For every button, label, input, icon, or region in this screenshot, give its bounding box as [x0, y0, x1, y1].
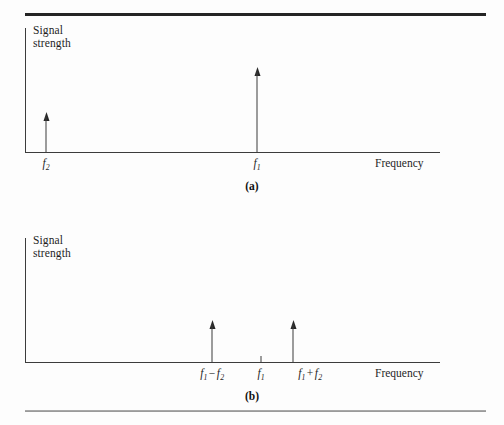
diff-sub2: 2: [220, 373, 224, 382]
panel-b-x-axis-label: Frequency: [375, 366, 424, 380]
bottom-divider-rule: [25, 410, 486, 412]
panel-b-spike-difference: [208, 320, 217, 362]
panel-a: Signal strength f2 f1 Frequency (a): [0, 20, 504, 205]
panel-a-spike-f1: [253, 67, 262, 152]
spike-stem: [212, 324, 213, 362]
panel-b-tick-label-sum: f1+f2: [298, 366, 322, 382]
panel-a-tick-label-f1: f1: [253, 156, 260, 172]
panel-a-x-axis: [25, 152, 440, 153]
panel-a-caption: (a): [0, 180, 504, 192]
panel-b-y-axis: [25, 238, 26, 362]
panel-b-x-axis: [25, 362, 440, 363]
center-sub: 1: [261, 373, 265, 382]
panel-b: Signal strength f1−f2 f1 f1+f2 Frequency…: [0, 230, 504, 410]
panel-b-spike-sum: [289, 320, 298, 362]
tick-label-f1-sub: 1: [257, 163, 261, 172]
panel-b-tick-label-f1: f1: [257, 366, 264, 382]
panel-b-axis-tick-f1: [261, 356, 262, 362]
figure-root: Signal strength f2 f1 Frequency (a) Sign…: [0, 0, 504, 425]
top-divider-rule: [25, 13, 486, 16]
spike-stem: [293, 324, 294, 362]
panel-b-tick-label-difference: f1−f2: [200, 366, 224, 382]
panel-b-y-axis-label: Signal strength: [33, 234, 71, 260]
tick-label-f2-sub: 2: [46, 163, 50, 172]
panel-a-x-axis-label: Frequency: [375, 156, 424, 170]
panel-a-y-axis-label: Signal strength: [33, 24, 71, 50]
diff-sub1: 1: [204, 373, 208, 382]
panel-b-caption: (b): [0, 390, 504, 402]
spike-stem: [257, 71, 258, 152]
sum-sub2: 2: [318, 373, 322, 382]
diff-operator: −: [207, 367, 217, 379]
panel-a-tick-label-f2: f2: [42, 156, 49, 172]
panel-a-spike-f2: [42, 112, 51, 152]
spike-stem: [46, 116, 47, 152]
panel-a-y-axis: [25, 28, 26, 152]
sum-sub1: 1: [302, 373, 306, 382]
sum-operator: +: [305, 367, 315, 379]
